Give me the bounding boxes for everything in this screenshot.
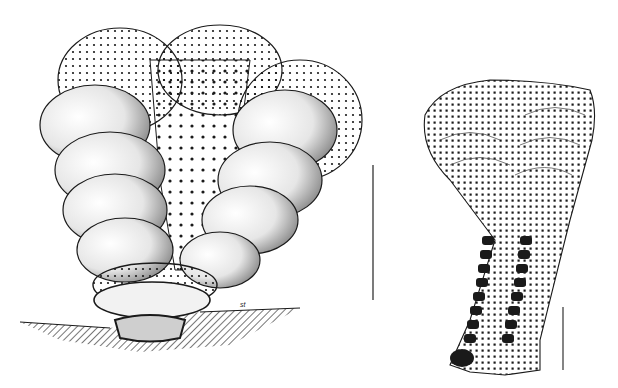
- figure-canvas: [0, 0, 618, 388]
- left-specimen: [20, 25, 362, 352]
- right-specimen: [424, 80, 594, 375]
- substrate-label: st: [240, 301, 245, 308]
